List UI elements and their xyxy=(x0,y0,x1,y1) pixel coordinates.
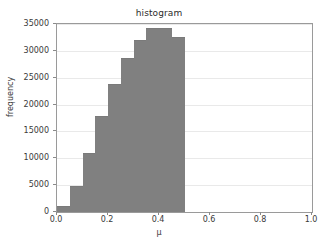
y-tick-mark xyxy=(53,104,56,105)
x-tick-mark xyxy=(209,212,210,215)
y-tick-mark xyxy=(53,50,56,51)
plot-area xyxy=(56,23,313,213)
histogram-bar xyxy=(159,28,172,212)
histogram-bar xyxy=(70,186,83,212)
histogram-bar xyxy=(57,206,70,212)
y-tick-mark xyxy=(53,157,56,158)
bars-container xyxy=(57,24,312,212)
histogram-bar xyxy=(108,84,121,212)
histogram-bar xyxy=(146,28,159,212)
x-tick-label: 0.2 xyxy=(87,215,127,224)
y-axis-label: frequency xyxy=(6,77,15,117)
y-tick-label: 35000 xyxy=(3,19,49,28)
histogram-bar xyxy=(134,40,147,212)
chart-title: histogram xyxy=(0,8,318,18)
y-tick-mark xyxy=(53,77,56,78)
y-tick-label: 25000 xyxy=(3,72,49,81)
x-tick-mark xyxy=(107,212,108,215)
y-tick-mark xyxy=(53,23,56,24)
x-tick-mark xyxy=(311,212,312,215)
x-axis-label: μ xyxy=(0,228,318,237)
histogram-figure: histogram frequency 05000100001500020000… xyxy=(0,0,318,245)
x-tick-label: 0.4 xyxy=(138,215,178,224)
histogram-bar xyxy=(83,153,96,212)
y-tick-mark xyxy=(53,130,56,131)
x-tick-mark xyxy=(260,212,261,215)
histogram-bar xyxy=(95,116,108,212)
histogram-bar xyxy=(121,58,134,212)
y-tick-label: 10000 xyxy=(3,153,49,162)
y-tick-label: 20000 xyxy=(3,99,49,108)
y-tick-label: 5000 xyxy=(3,180,49,189)
x-tick-mark xyxy=(56,212,57,215)
x-tick-mark xyxy=(158,212,159,215)
x-tick-label: 1.0 xyxy=(291,215,318,224)
x-tick-label: 0.0 xyxy=(36,215,76,224)
x-tick-label: 0.8 xyxy=(240,215,280,224)
y-tick-label: 15000 xyxy=(3,126,49,135)
histogram-bar xyxy=(172,37,185,212)
y-tick-mark xyxy=(53,184,56,185)
y-tick-label: 30000 xyxy=(3,45,49,54)
x-tick-label: 0.6 xyxy=(189,215,229,224)
